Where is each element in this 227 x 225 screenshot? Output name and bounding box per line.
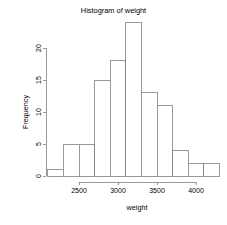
histogram-bar bbox=[157, 106, 173, 176]
histogram-bar bbox=[79, 144, 95, 176]
y-axis-tick-label: 15 bbox=[35, 76, 42, 84]
y-axis: 05101520 bbox=[35, 44, 46, 178]
histogram-bar bbox=[204, 163, 220, 176]
histogram-bar bbox=[173, 150, 189, 176]
histogram-bar bbox=[188, 163, 204, 176]
x-axis: 2500300035004000 bbox=[71, 182, 204, 194]
x-axis-tick-label: 3500 bbox=[149, 187, 165, 194]
x-axis-tick-label: 4000 bbox=[188, 187, 204, 194]
chart-title: Histogram of weight bbox=[81, 6, 146, 15]
histogram-screenshot: Histogram of weight Frequency weight 051… bbox=[0, 0, 227, 225]
y-axis-label: Frequency bbox=[21, 95, 30, 129]
histogram-bar bbox=[110, 61, 126, 176]
histogram-bar bbox=[141, 93, 157, 176]
y-axis-tick-label: 20 bbox=[35, 44, 42, 52]
y-axis-tick-label: 0 bbox=[35, 174, 42, 178]
x-axis-tick-label: 3000 bbox=[110, 187, 126, 194]
x-axis-tick-label: 2500 bbox=[71, 187, 87, 194]
y-axis-tick-label: 5 bbox=[35, 142, 42, 146]
histogram-bar bbox=[126, 22, 142, 176]
histogram-plot: Histogram of weight Frequency weight 051… bbox=[0, 0, 227, 225]
histogram-bar bbox=[48, 170, 64, 176]
histogram-bars bbox=[48, 22, 220, 176]
histogram-bar bbox=[63, 144, 79, 176]
histogram-bar bbox=[95, 80, 111, 176]
x-axis-label: weight bbox=[126, 203, 148, 212]
y-axis-tick-label: 10 bbox=[35, 108, 42, 116]
